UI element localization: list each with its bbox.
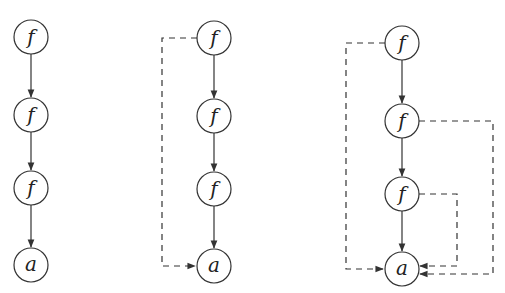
node-f: f — [197, 21, 231, 55]
node-f: f — [14, 20, 48, 54]
node-f: f — [14, 171, 48, 205]
node-f: f — [197, 172, 231, 206]
graph-2: f f f a — [162, 21, 231, 283]
node-label: a — [25, 252, 37, 276]
node-a: a — [14, 248, 48, 282]
graph-3: f f f a — [346, 26, 493, 286]
node-f: f — [385, 177, 419, 211]
dashed-pointer-arrow — [162, 38, 197, 266]
node-a: a — [385, 252, 419, 286]
node-a: a — [197, 249, 231, 283]
node-f: f — [385, 26, 419, 60]
dashed-pointer-arrow-left — [346, 43, 385, 269]
graph-1: f f f a — [14, 20, 48, 282]
node-f: f — [14, 98, 48, 132]
node-f: f — [385, 104, 419, 138]
node-label: a — [396, 256, 408, 280]
term-dag-diagram: f f f a f f f — [0, 0, 505, 293]
dashed-pointer-arrow-right-inner — [419, 194, 457, 266]
node-f: f — [197, 99, 231, 133]
dashed-pointer-arrow-right-outer — [419, 121, 493, 274]
node-label: a — [208, 253, 220, 277]
